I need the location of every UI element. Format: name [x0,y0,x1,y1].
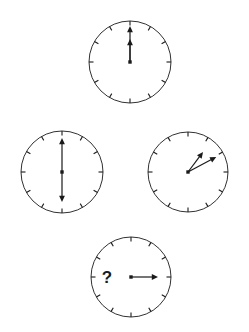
clock-puzzle-figure: ? [0,0,249,332]
center-pivot [186,170,189,173]
clock-bottom: ? [91,237,171,317]
clock-right [148,132,228,212]
clock-top [89,21,171,103]
center-pivot [128,60,131,63]
center-pivot [60,170,63,173]
clock-left [21,131,103,213]
center-pivot [129,275,132,278]
question-mark-label: ? [102,268,112,287]
clocks-group: ? [21,21,228,317]
